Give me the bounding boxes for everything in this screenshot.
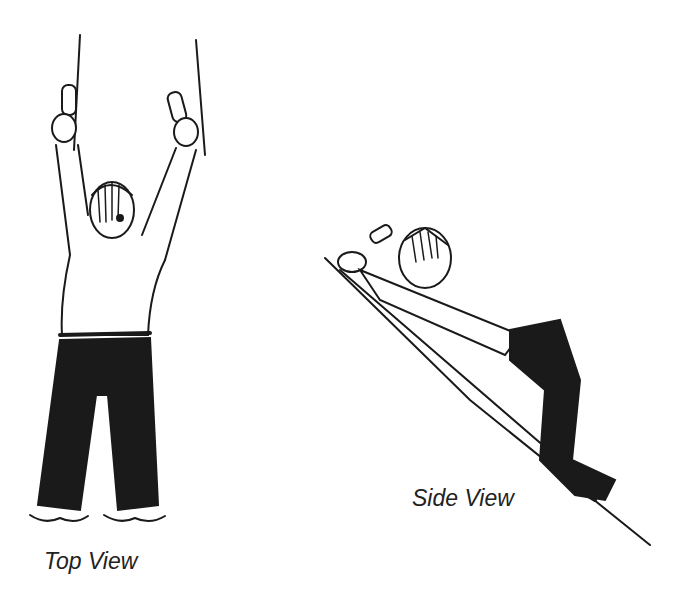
top-view-figure [30,35,205,521]
illustration: Top View Side View [0,0,681,600]
side-view-caption: Side View [412,485,514,512]
climber-drawings [0,0,681,600]
top-view-caption: Top View [44,548,137,575]
